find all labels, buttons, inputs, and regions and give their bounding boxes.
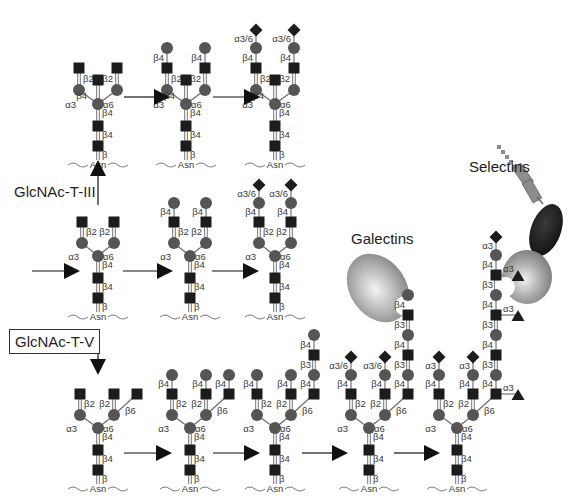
hexose-circle-icon [253, 237, 265, 249]
linkage-label: β4 [194, 453, 205, 464]
hexose-circle-icon [199, 84, 211, 96]
linkage-label: β4 [242, 52, 253, 63]
linkage-label: β2 [279, 73, 290, 84]
linkage-label: β4 [459, 378, 470, 389]
glcnac-square-icon [309, 389, 320, 400]
hexose-circle-icon [379, 409, 391, 421]
asn-label: Asn [178, 159, 194, 170]
linkage-label: β4 [102, 281, 113, 292]
glycosidic-bonds [68, 30, 516, 491]
asn-label: Asn [182, 483, 198, 494]
peptide-backbone [245, 487, 265, 491]
hexose-circle-icon [168, 237, 180, 249]
peptide-backbone [467, 487, 487, 491]
linkage-label: β4 [191, 52, 202, 63]
linkage-label: β2 [370, 398, 381, 409]
glcnac-square-icon [491, 389, 502, 400]
linkage-label: β6 [302, 405, 313, 416]
linkage-label: β6 [484, 405, 495, 416]
linkage-label: β2 [178, 226, 189, 237]
glcnac-square-icon [251, 63, 262, 74]
asn-label: Asn [90, 483, 106, 494]
linkage-label: α3 [68, 251, 79, 262]
linkage-label: β4 [279, 281, 290, 292]
glcnac-square-icon [468, 389, 479, 400]
linkage-label: β4 [300, 378, 311, 389]
linkage-label: β2 [99, 398, 110, 409]
hexose-circle-icon [108, 237, 120, 249]
hexose-circle-icon [76, 237, 88, 249]
glcnac-square-icon [286, 217, 297, 228]
hexose-circle-icon [200, 409, 212, 421]
enzyme-label-gnt3: GlcNAc-T-III [14, 184, 96, 199]
peptide-backbone [245, 315, 265, 319]
glcnac-square-icon [403, 389, 414, 400]
protein-label-galectins: Galectins [351, 231, 414, 246]
glcnac-square-icon [109, 217, 120, 228]
linkage-label: β3 [482, 279, 493, 290]
glcnac-square-icon [200, 63, 211, 74]
linkage-label: β4 [280, 52, 291, 63]
linkage-label: β2 [190, 73, 201, 84]
linkage-label: β3 [394, 319, 405, 330]
linkage-label: α3/6 [234, 33, 253, 44]
linkage-label: β4 [482, 299, 493, 310]
diagram-svg: β4β4βAsnα3α6β4β2β2β4β4βAsnα3α6β4β2β2β4β4… [0, 0, 578, 504]
peptide-backbone [379, 487, 399, 491]
glcnac-square-icon [289, 63, 300, 74]
linkage-label: α6 [280, 99, 291, 110]
peptide-backbone [245, 163, 265, 167]
linkage-label: α3/6 [237, 188, 256, 199]
glcnac-square-icon [380, 389, 391, 400]
linkage-label: β4 [158, 378, 169, 389]
glcnac-square-icon [74, 63, 85, 74]
linkage-label: β2 [263, 226, 274, 237]
hexose-circle-icon [433, 409, 445, 421]
glcnac-square-icon [201, 217, 212, 228]
linkage-label: α3/6 [329, 360, 348, 371]
peptide-backbone [285, 163, 305, 167]
linkage-label: α3 [160, 251, 171, 262]
linkage-label: β4 [394, 378, 405, 389]
peptide-backbone [68, 163, 88, 167]
hexose-circle-icon [108, 409, 120, 421]
asn-label: Asn [182, 311, 198, 322]
linkage-label: β2 [171, 73, 182, 84]
linkage-label: β4 [482, 378, 493, 389]
hexose-circle-icon [251, 409, 263, 421]
linkage-label: β6 [125, 405, 136, 416]
arrow-head-right-icon [332, 445, 348, 461]
linkage-label: β2 [102, 73, 113, 84]
peptide-backbone [200, 487, 220, 491]
linkage-label: β4 [277, 206, 288, 217]
glcnac-square-icon [201, 389, 212, 400]
linkage-label: α6 [103, 251, 114, 262]
linkage-label: β2 [83, 73, 94, 84]
linkage-label: β4 [277, 378, 288, 389]
hexose-circle-icon [166, 409, 178, 421]
arrow-head-right-icon [243, 263, 259, 279]
arrow-head-right-icon [156, 445, 172, 461]
linkage-label: α3 [425, 360, 436, 371]
linkage-label: α6 [280, 423, 291, 434]
linkage-label: β3 [482, 319, 493, 330]
linkage-label: α6 [191, 99, 202, 110]
linkage-label: β4 [245, 206, 256, 217]
peptide-backbone [156, 163, 176, 167]
linkage-label: β2 [176, 398, 187, 409]
linkage-label: α3 [243, 423, 254, 434]
linkage-label: β4 [190, 129, 201, 140]
hexose-circle-icon [74, 409, 86, 421]
linkage-label: β2 [86, 226, 97, 237]
peptide-backbone [160, 315, 180, 319]
linkage-label: β4 [482, 259, 493, 270]
linkage-label: α6 [280, 251, 291, 262]
peptide-backbone [285, 315, 305, 319]
glcnac-square-icon [224, 389, 235, 400]
linkage-label: α6 [103, 99, 114, 110]
linkage-label: α6 [103, 423, 114, 434]
linkage-label: β4 [482, 339, 493, 350]
peptide-backbone [108, 487, 128, 491]
hexose-circle-icon [200, 237, 212, 249]
linkage-label: β4 [371, 378, 382, 389]
